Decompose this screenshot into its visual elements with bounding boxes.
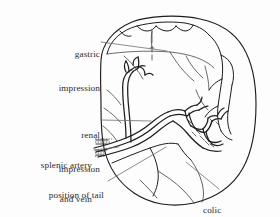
label-position-of-tail-of-pancreas: position of tail of pancreas xyxy=(12,167,104,217)
renal-impression-surface xyxy=(103,90,121,141)
label-position-of-tail-of-pancreas-line1: position of tail xyxy=(12,190,104,201)
label-gastric-impression-line2: impression xyxy=(18,83,100,94)
label-colic-impression-line1: colic xyxy=(203,205,277,216)
label-gastric-impression: gastric impression xyxy=(18,26,100,117)
leader-renal-impression xyxy=(101,120,151,121)
leader-lines xyxy=(94,42,219,189)
leader-gastric-impression xyxy=(101,42,167,51)
colic-impression-surface xyxy=(140,160,204,203)
splenic-vessels xyxy=(94,57,228,157)
label-colic-impression: colic impression xyxy=(203,182,277,217)
spleen-diagram-figure: gastric impression renal impression sple… xyxy=(0,0,280,217)
label-gastric-impression-line1: gastric xyxy=(18,49,100,60)
pancreatic-tail-groove xyxy=(112,143,191,196)
